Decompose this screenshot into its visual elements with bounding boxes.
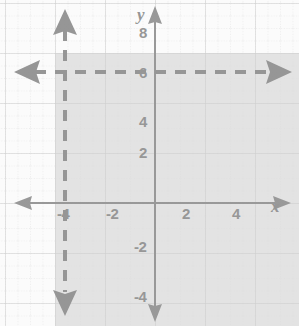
x-tick-label--4: -4 bbox=[57, 206, 69, 221]
x-tick-label-2: 2 bbox=[182, 206, 190, 221]
y-tick-label-2: 2 bbox=[139, 145, 147, 160]
major-gridlines bbox=[0, 0, 299, 326]
y-tick-label-4: 4 bbox=[139, 114, 147, 129]
x-tick-label-4: 4 bbox=[232, 206, 240, 221]
coordinate-plane-figure: -4 -2 2 4 8 6 4 2 -2 -4 y x bbox=[0, 0, 299, 326]
y-axis-label: y bbox=[137, 6, 145, 23]
y-tick-label-6: 6 bbox=[139, 65, 147, 80]
y-tick-label--4: -4 bbox=[134, 289, 146, 304]
y-tick-label--2: -2 bbox=[134, 239, 146, 254]
x-tick-label--2: -2 bbox=[106, 206, 118, 221]
graph-canvas bbox=[0, 0, 299, 326]
y-tick-label-8: 8 bbox=[139, 25, 147, 40]
x-axis-label: x bbox=[271, 198, 280, 215]
